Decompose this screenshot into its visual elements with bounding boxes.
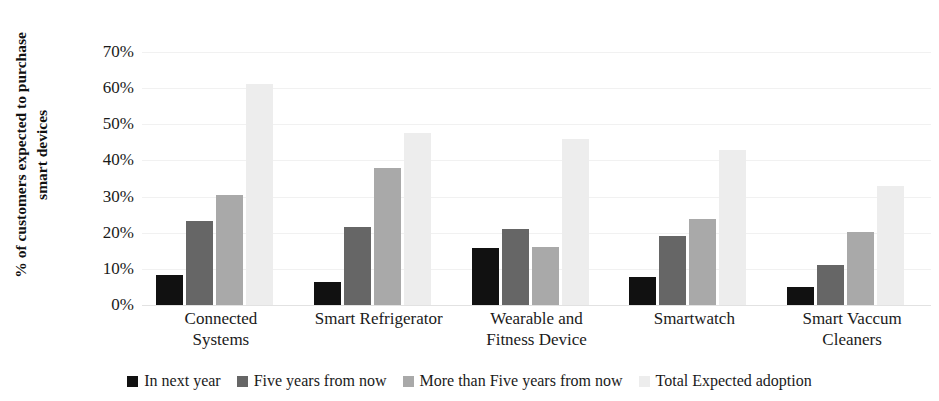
y-axis-tick-labels: 70%60%50%40%30%20%10%0% [66,45,140,311]
x-axis-category-label: Smartwatch [615,308,773,360]
bar-groups [142,52,931,305]
chart-legend: In next yearFive years from nowMore than… [0,368,939,394]
legend-item[interactable]: More than Five years from now [403,372,623,390]
y-axis-tick-label: 60% [103,78,134,98]
bar [344,227,371,305]
bar [216,195,243,305]
bar [186,221,213,305]
y-axis-tick-label: 20% [103,223,134,243]
x-axis-category-label-line: Connected [144,308,298,329]
legend-item[interactable]: Five years from now [237,372,387,390]
bar [472,248,499,305]
bar [532,247,559,305]
y-axis-title-line-2: smart devices [32,32,53,278]
legend-swatch-icon [639,376,650,387]
bar-group [458,52,616,305]
bar-group [773,52,931,305]
bar [787,287,814,305]
bar-group [300,52,458,305]
x-axis-category-label-line: Systems [144,329,298,350]
bar [817,265,844,305]
x-axis-category-labels: ConnectedSystemsSmart RefrigeratorWearab… [142,308,931,360]
legend-item[interactable]: In next year [127,372,220,390]
y-axis-tick-label: 10% [103,259,134,279]
x-axis-category-label-line: Smart Refrigerator [302,308,456,329]
bar [314,282,341,305]
bar-group [615,52,773,305]
x-axis-category-label-line: Smartwatch [617,308,771,329]
legend-item[interactable]: Total Expected adoption [639,372,812,390]
bar [877,186,904,305]
bar [562,139,589,305]
x-axis-category-label: Smart VaccumCleaners [773,308,931,360]
x-axis-category-label: ConnectedSystems [142,308,300,360]
legend-label: Five years from now [254,372,387,390]
x-axis-category-label-line: Smart Vaccum [775,308,929,329]
y-axis-tick-label: 0% [111,295,134,315]
y-axis-title: % of customers expected to purchase smar… [0,0,64,310]
bar [502,229,529,305]
bar [404,133,431,305]
bar [246,84,273,305]
legend-swatch-icon [127,376,138,387]
bar [659,236,686,305]
x-axis-category-label: Smart Refrigerator [300,308,458,360]
legend-label: More than Five years from now [420,372,623,390]
legend-label: Total Expected adoption [656,372,812,390]
bar [689,219,716,305]
x-axis-category-label-line: Cleaners [775,329,929,350]
bar [374,168,401,305]
bar [629,277,656,305]
x-axis-category-label-line: Fitness Device [460,329,614,350]
x-axis-category-label-line: Wearable and [460,308,614,329]
legend-label: In next year [144,372,220,390]
y-axis-tick-label: 70% [103,42,134,62]
bar-chart: % of customers expected to purchase smar… [0,0,939,401]
y-axis-title-line-1: % of customers expected to purchase [11,32,32,278]
bar-group [142,52,300,305]
bar [156,275,183,305]
legend-swatch-icon [403,376,414,387]
gridline [142,305,931,306]
legend-swatch-icon [237,376,248,387]
plot-area [142,52,931,305]
x-axis-category-label: Wearable andFitness Device [458,308,616,360]
y-axis-tick-label: 30% [103,187,134,207]
y-axis-tick-label: 50% [103,114,134,134]
y-axis-tick-label: 40% [103,150,134,170]
bar [847,232,874,305]
bar [719,150,746,305]
